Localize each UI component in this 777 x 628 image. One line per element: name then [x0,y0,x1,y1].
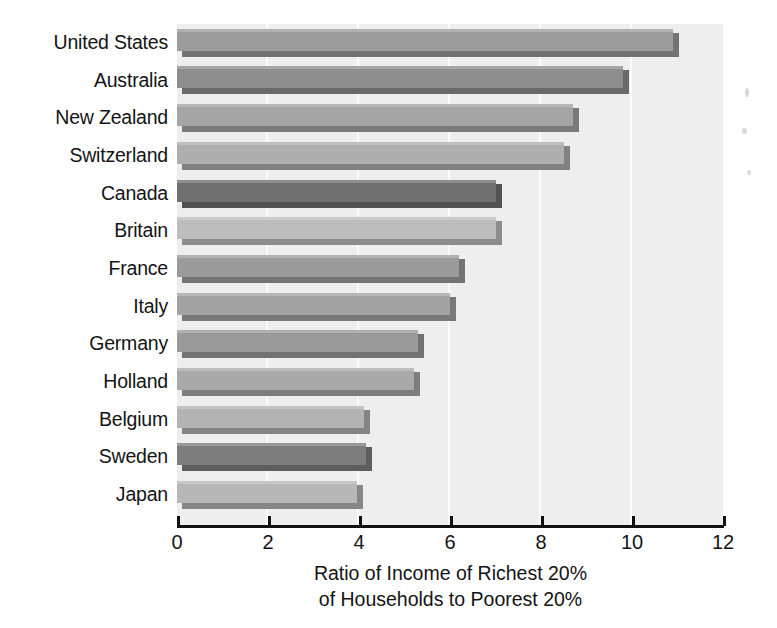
x-tick-6 [450,516,453,526]
bar-body [177,29,673,51]
bar-shadow-right [564,146,570,170]
bar-shadow-bottom [182,51,673,57]
bar-shadow-right [366,447,372,471]
category-label: Britain [0,212,168,250]
bar-highlight [177,142,564,145]
bar-chart-figure: United StatesAustraliaNew ZealandSwitzer… [0,0,777,628]
bar-japan [177,481,357,509]
bar-shadow-bottom [182,428,364,434]
bar-shadow-bottom [182,126,573,132]
bar-shadow-right [364,410,370,434]
scan-speckle [747,170,751,175]
bar-shadow-bottom [182,465,366,471]
bar-germany [177,330,418,358]
scan-speckle [745,88,749,97]
x-tick-10 [632,516,635,526]
bar-body [177,443,366,465]
bar-shadow-bottom [182,352,418,358]
bar-highlight [177,29,673,32]
bar-australia [177,66,623,94]
bar-body [177,142,564,164]
bar-shadow-bottom [182,315,450,321]
x-tick-label: 10 [612,531,652,554]
bar-holland [177,368,414,396]
chart-row: Canada [0,175,777,213]
bar-highlight [177,104,573,107]
category-label: Sweden [0,438,168,476]
bar-shadow-bottom [182,277,459,283]
bar-shadow-right [673,33,679,57]
bar-highlight [177,180,496,183]
category-label: Australia [0,62,168,100]
chart-row: Sweden [0,438,777,476]
x-tick-label: 0 [157,531,197,554]
x-tick-label: 6 [430,531,470,554]
category-label: Holland [0,363,168,401]
bar-body [177,180,496,202]
category-label: United States [0,24,168,62]
bar-body [177,66,623,88]
bar-new-zealand [177,104,573,132]
bar-shadow-bottom [182,202,496,208]
x-axis-title: Ratio of Income of Richest 20% of Househ… [177,560,724,612]
x-tick-8 [541,516,544,526]
bar-body [177,481,357,503]
bar-france [177,255,459,283]
category-label: Japan [0,476,168,514]
chart-row: Britain [0,212,777,250]
bar-body [177,368,414,390]
bar-highlight [177,368,414,371]
category-label: New Zealand [0,99,168,137]
bar-shadow-right [450,297,456,321]
bar-highlight [177,481,357,484]
bar-sweden [177,443,366,471]
category-label: Germany [0,325,168,363]
chart-row: Switzerland [0,137,777,175]
bar-shadow-right [357,485,363,509]
x-tick-label: 4 [339,531,379,554]
x-tick-4 [359,516,362,526]
bar-highlight [177,406,364,409]
bar-canada [177,180,496,208]
bar-body [177,293,450,315]
bar-shadow-right [623,70,629,94]
bar-shadow-bottom [182,239,496,245]
bar-shadow-right [496,184,502,208]
bar-shadow-bottom [182,164,564,170]
category-label: Belgium [0,401,168,439]
bar-body [177,217,496,239]
category-label: Italy [0,288,168,326]
bar-belgium [177,406,364,434]
category-label: Canada [0,175,168,213]
bar-shadow-right [414,372,420,396]
bar-highlight [177,443,366,446]
chart-row: Holland [0,363,777,401]
bar-highlight [177,66,623,69]
bar-shadow-right [418,334,424,358]
chart-row: Japan [0,476,777,514]
scan-speckle [742,128,747,134]
bar-united-states [177,29,673,57]
chart-row: New Zealand [0,99,777,137]
bar-italy [177,293,450,321]
bar-highlight [177,330,418,333]
x-tick-0 [177,516,180,526]
bar-body [177,330,418,352]
chart-row: France [0,250,777,288]
bar-shadow-right [573,108,579,132]
x-tick-label: 2 [248,531,288,554]
x-tick-2 [268,516,271,526]
bar-shadow-bottom [182,390,414,396]
bar-body [177,255,459,277]
bar-shadow-right [496,221,502,245]
bar-shadow-bottom [182,503,357,509]
bar-highlight [177,255,459,258]
x-tick-12 [723,516,726,526]
bar-body [177,104,573,126]
x-axis-title-line-2: of Households to Poorest 20% [177,586,724,612]
category-label: France [0,250,168,288]
chart-row: Germany [0,325,777,363]
chart-row: United States [0,24,777,62]
chart-row: Belgium [0,401,777,439]
chart-row: Italy [0,288,777,326]
